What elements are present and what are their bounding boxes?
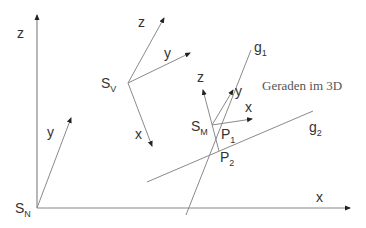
p2-label: P2 (220, 149, 234, 168)
world-origin-label: SN (15, 200, 31, 219)
mid-origin-label: SM (191, 118, 208, 137)
mid-z-axis (203, 90, 219, 151)
g2-label: g2 (309, 119, 322, 138)
view-y-axis (128, 53, 190, 83)
view-y-label: y (164, 45, 171, 61)
mid-x-axis (212, 119, 252, 125)
mid-x-label: x (245, 99, 252, 115)
mid-y-axis (212, 90, 233, 125)
lines: g1 g2 (147, 39, 322, 215)
diagram-title: Geraden im 3D (262, 78, 342, 93)
g1-label: g1 (254, 39, 267, 58)
world-x-label: x (316, 189, 323, 205)
world-z-label: z (17, 25, 24, 41)
world-y-axis (37, 118, 71, 208)
view-z-label: z (138, 14, 145, 30)
view-z-axis (128, 18, 164, 83)
world-y-label: y (47, 124, 54, 140)
mid-z-label: z (197, 69, 204, 85)
mid-y-label: y (235, 83, 242, 99)
view-x-label: x (135, 126, 142, 142)
line-g2 (147, 111, 313, 182)
p1-label: P1 (221, 126, 235, 145)
view-origin-label: SV (101, 75, 116, 94)
view-frame: z y x SV (101, 14, 190, 146)
geraden-3d-diagram: z y x SN z y x SV g1 g2 z y x SM P1 P2 G… (0, 0, 366, 228)
